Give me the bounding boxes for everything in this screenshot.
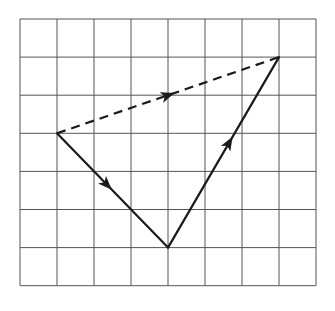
arrowhead-icon [221,137,233,152]
vector-v2 [168,57,279,248]
vector-diagram [0,0,335,311]
vector-v1 [57,133,168,247]
